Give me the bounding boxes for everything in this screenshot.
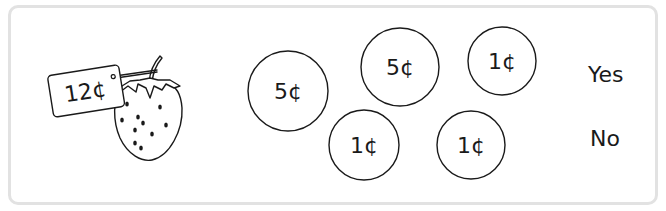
coin-label: 5¢ <box>274 79 302 104</box>
coin-label: 1¢ <box>488 49 516 74</box>
price-tag: 12¢ <box>47 65 125 118</box>
answer-yes-option[interactable]: Yes <box>588 62 624 87</box>
coin[interactable]: 5¢ <box>248 51 328 131</box>
answer-no-option[interactable]: No <box>590 126 620 151</box>
coin-label: 5¢ <box>386 55 414 80</box>
coin[interactable]: 1¢ <box>468 27 536 95</box>
coin[interactable]: 5¢ <box>361 28 439 106</box>
coin[interactable]: 1¢ <box>329 110 399 180</box>
coin-label: 1¢ <box>350 133 378 158</box>
coin-label: 1¢ <box>457 133 485 158</box>
strawberry-icon <box>115 56 182 160</box>
coin[interactable]: 1¢ <box>437 111 505 179</box>
tag-hole-icon <box>111 74 116 79</box>
illustration: 12¢ 5¢ 5¢ 1¢ 1¢ 1¢ <box>0 0 666 211</box>
